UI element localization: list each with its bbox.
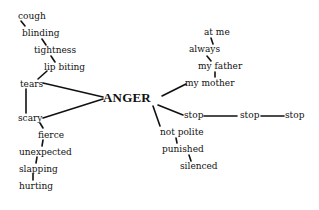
- edge-lip-tears: [38, 71, 47, 79]
- word-my-father: my father: [198, 62, 242, 71]
- word-fierce: fierce: [38, 131, 64, 140]
- word-unexpected: unexpected: [19, 148, 72, 157]
- word-stop-1: stop: [184, 111, 203, 120]
- word-punished: punished: [162, 145, 204, 154]
- word-hurting: hurting: [19, 182, 53, 191]
- word-stop-3: stop: [285, 111, 304, 120]
- edge-unexpected-slapping: [36, 157, 37, 163]
- word-blinding: blinding: [22, 29, 60, 38]
- word-at-me: at me: [204, 28, 230, 37]
- word-tightness: tightness: [34, 46, 76, 55]
- edge-anger-stop1: [158, 105, 183, 115]
- word-always: always: [189, 45, 220, 54]
- word-silenced: silenced: [180, 162, 218, 171]
- edge-anger-notpolite: [153, 106, 160, 126]
- edge-scary-anger: [43, 99, 103, 118]
- word-lip-biting: lip biting: [44, 63, 85, 72]
- word-not-polite: not polite: [160, 128, 204, 137]
- word-web-diagram: ANGER cough blinding tightness lip bitin…: [0, 0, 319, 210]
- edge-cough-blinding: [21, 21, 25, 26]
- word-cough: cough: [18, 12, 46, 21]
- word-slapping: slapping: [19, 165, 58, 174]
- edge-scary-fierce: [40, 123, 43, 128]
- center-word-anger: ANGER: [103, 91, 151, 104]
- word-my-mother: my mother: [185, 79, 234, 88]
- word-tears: tears: [20, 80, 43, 89]
- edge-anger-mother: [162, 84, 186, 96]
- word-scary: scary: [18, 114, 42, 123]
- word-stop-2: stop: [240, 111, 259, 120]
- edge-notpolite-punished: [176, 138, 177, 143]
- edge-fierce-unexpected: [42, 140, 43, 146]
- edge-tears-anger: [43, 83, 103, 97]
